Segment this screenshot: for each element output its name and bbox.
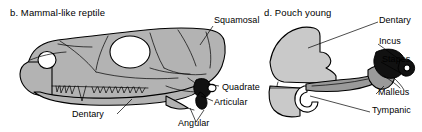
anatomy-figure: b. Mammal-like reptile bbox=[0, 0, 422, 132]
label-articular: Articular bbox=[214, 97, 247, 107]
label-malleus: Malleus bbox=[378, 87, 409, 97]
label-stapes: Stapes bbox=[382, 54, 410, 64]
mammal-like-reptile-skull-drawing bbox=[0, 0, 250, 132]
panel-mammal-like-reptile: b. Mammal-like reptile bbox=[0, 0, 250, 132]
label-incus: Incus bbox=[379, 36, 401, 46]
label-angular: Angular bbox=[178, 118, 209, 128]
label-tympanic: Tympanic bbox=[372, 105, 411, 115]
label-dentary-pouch-young: Dentary bbox=[379, 15, 411, 25]
label-dentary-reptile: Dentary bbox=[72, 109, 104, 119]
panel-pouch-young: d. Pouch young bbox=[250, 0, 422, 132]
